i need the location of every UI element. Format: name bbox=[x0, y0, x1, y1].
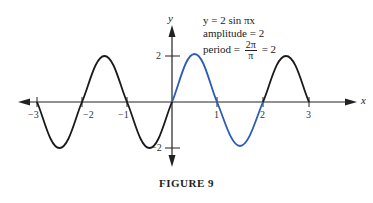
x-tick-label-neg2: −2 bbox=[83, 109, 94, 120]
x-tick-label-2: 2 bbox=[260, 109, 265, 120]
x-tick-label-neg1: −1 bbox=[118, 109, 129, 120]
x-tick-label-3: 3 bbox=[306, 109, 311, 120]
figure-caption: FIGURE 9 bbox=[0, 177, 373, 189]
period-label: period = 2π π = 2 bbox=[203, 40, 276, 61]
y-tick-label-neg2: −2 bbox=[151, 142, 162, 153]
x-axis-label: x bbox=[361, 95, 366, 106]
period-denominator: π bbox=[245, 51, 257, 61]
x-tick-label-neg3: −3 bbox=[28, 109, 39, 120]
y-axis-down-arrow-icon bbox=[169, 155, 176, 167]
x-tick-label-1: 1 bbox=[214, 109, 219, 120]
period-value: = 2 bbox=[262, 43, 276, 55]
x-axis-right-arrow-icon bbox=[345, 99, 357, 106]
period-fraction: 2π π bbox=[245, 40, 257, 61]
y-tick-label-2: 2 bbox=[156, 50, 161, 61]
sine-graph bbox=[0, 0, 373, 203]
equation-label: y = 2 sin πx bbox=[203, 15, 255, 26]
y-axis-up-arrow-icon bbox=[169, 25, 176, 37]
amplitude-label: amplitude = 2 bbox=[203, 28, 264, 39]
x-axis-left-arrow-icon bbox=[18, 99, 30, 106]
sine-curve-right bbox=[263, 56, 309, 102]
period-prefix: period = bbox=[203, 43, 240, 55]
y-axis-label: y bbox=[168, 13, 173, 24]
